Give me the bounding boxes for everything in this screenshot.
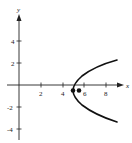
y-tick-label: -4 (7, 126, 13, 134)
x-tick-label: 4 (61, 90, 65, 98)
focus-point (77, 88, 82, 93)
y-tick-label: -2 (7, 104, 13, 112)
parabola-chart: x y 2 4 6 8 4 2 -2 -4 (0, 0, 132, 143)
x-tick-label: 2 (39, 90, 43, 98)
y-axis-label: y (16, 6, 21, 14)
x-tick-label: 6 (83, 90, 87, 98)
x-axis-label: x (125, 82, 130, 90)
y-tick-label: 2 (11, 60, 15, 68)
y-tick-label: 4 (11, 38, 15, 46)
y-axis-arrow-icon (17, 14, 22, 21)
vertex-point (71, 88, 76, 93)
x-axis-arrow-icon (117, 83, 124, 88)
x-tick-label: 8 (104, 90, 108, 98)
